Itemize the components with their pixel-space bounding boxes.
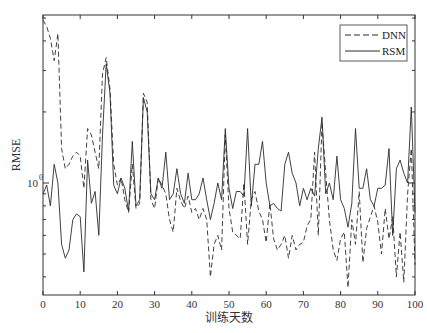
x-tick-label: 40 [186, 298, 198, 310]
x-tick-label: 70 [298, 298, 310, 310]
x-tick-label: 80 [335, 298, 347, 310]
y-tick-label-base: 10 [27, 177, 39, 189]
y-tick-label-exponent: 0 [39, 173, 43, 182]
rmse-line-chart: 0102030405060708090100 训练天数 RMSE 10 0 DN… [0, 0, 427, 333]
x-tick-label: 20 [112, 298, 124, 310]
x-tick-label: 10 [75, 298, 87, 310]
x-tick-label: 0 [40, 298, 46, 310]
x-tick-label: 30 [149, 298, 161, 310]
x-axis-title: 训练天数 [205, 310, 253, 325]
x-tick-label: 90 [372, 298, 384, 310]
legend: DNN RSM [340, 25, 407, 61]
x-tick-label: 100 [407, 298, 424, 310]
x-tick-label: 50 [224, 298, 236, 310]
legend-rsm-label: RSM [382, 45, 405, 57]
y-axis-title: RMSE [9, 139, 23, 172]
x-tick-label: 60 [261, 298, 273, 310]
y-axis-major-label: 10 0 [27, 173, 43, 189]
legend-dnn-label: DNN [382, 29, 406, 41]
